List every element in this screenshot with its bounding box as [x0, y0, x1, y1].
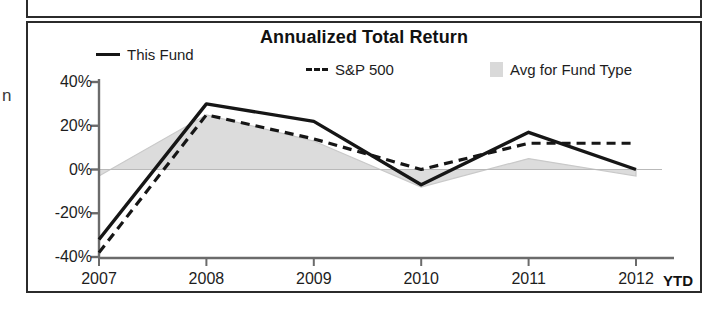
x-axis-tick-label: 2008: [189, 270, 225, 288]
plot-area: 40%20%0%-20%-40% 20072008200920102011201…: [28, 23, 704, 295]
x-axis-tick-label: 2009: [296, 270, 332, 288]
x-axis-tick-label: 2011: [511, 270, 545, 288]
x-axis-tick-labels: 200720082009201020112012YTD: [28, 23, 704, 295]
annualized-total-return-chart-panel: Annualized Total Return This Fund S&P 50…: [26, 21, 702, 293]
partial-panel-above: [26, 0, 702, 18]
page-root: n Annualized Total Return This Fund S&P …: [0, 0, 707, 315]
x-axis-tick-label: 2007: [81, 270, 117, 288]
x-axis-tick-label: 2010: [403, 270, 439, 288]
x-axis-ytd-label: YTD: [663, 272, 693, 289]
x-axis-tick-label: 2012: [618, 270, 654, 288]
page-edge-glyph: n: [2, 86, 11, 106]
